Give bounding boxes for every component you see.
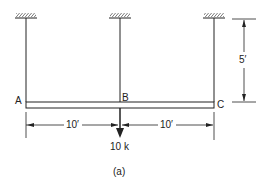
point-label-b: B — [122, 93, 129, 103]
point-label-a: A — [15, 96, 22, 106]
support-left — [15, 13, 37, 18]
support-middle — [109, 13, 131, 18]
beam — [26, 102, 214, 108]
structure-diagram — [0, 0, 270, 184]
point-label-c: C — [217, 100, 224, 110]
figure-caption: (a) — [113, 167, 125, 177]
height-label: 5′ — [239, 55, 246, 65]
right-span-label: 10′ — [160, 120, 173, 130]
support-right — [203, 13, 225, 18]
left-span-label: 10′ — [66, 120, 79, 130]
load-label: 10 k — [110, 142, 129, 152]
